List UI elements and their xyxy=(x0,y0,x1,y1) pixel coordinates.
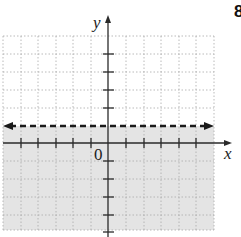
y-axis-label: y xyxy=(91,13,101,32)
y-axis-arrow-icon xyxy=(105,15,111,23)
inequality-graph: y x 0 8 xyxy=(0,0,241,237)
x-axis-label: x xyxy=(223,144,232,163)
origin-label: 0 xyxy=(94,145,103,164)
problem-number: 8 xyxy=(234,2,241,21)
